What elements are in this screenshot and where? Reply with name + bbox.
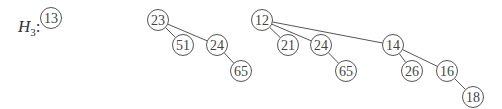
node-value: 14 xyxy=(386,38,400,53)
node-value: 26 xyxy=(405,64,419,79)
tree-node-14: 14 xyxy=(383,35,404,56)
tree-node-12: 12 xyxy=(252,10,273,31)
tree-13: 13 xyxy=(41,8,62,29)
tree-node-51: 51 xyxy=(173,35,194,56)
tree-node-21: 21 xyxy=(278,35,299,56)
node-value: 21 xyxy=(281,38,295,53)
tree-edge xyxy=(328,53,338,64)
node-value: 65 xyxy=(234,64,248,79)
tree-node-18: 18 xyxy=(463,87,484,108)
binomial-heap-diagram: 13235124651221246514261618 xyxy=(0,0,502,109)
tree-node-24: 24 xyxy=(311,35,332,56)
tree-node-65: 65 xyxy=(336,61,357,82)
tree-edge xyxy=(165,27,175,37)
node-value: 24 xyxy=(314,38,328,53)
node-value: 12 xyxy=(255,13,269,28)
tree-node-16: 16 xyxy=(437,61,458,82)
tree-23: 23512465 xyxy=(148,10,252,82)
tree-node-23: 23 xyxy=(148,10,169,31)
node-value: 65 xyxy=(339,64,353,79)
node-value: 51 xyxy=(176,38,190,53)
node-value: 16 xyxy=(440,64,454,79)
tree-edge xyxy=(454,78,465,89)
tree-node-26: 26 xyxy=(402,61,423,82)
node-value: 18 xyxy=(466,90,480,105)
tree-12: 1221246514261618 xyxy=(252,10,484,108)
tree-edge xyxy=(224,53,234,64)
node-value: 23 xyxy=(151,13,165,28)
tree-edge xyxy=(270,27,281,37)
node-value: 24 xyxy=(210,38,224,53)
tree-node-65: 65 xyxy=(231,61,252,82)
tree-node-24: 24 xyxy=(207,35,228,56)
node-value: 13 xyxy=(44,11,58,26)
tree-node-13: 13 xyxy=(41,8,62,29)
tree-edge xyxy=(399,53,406,62)
